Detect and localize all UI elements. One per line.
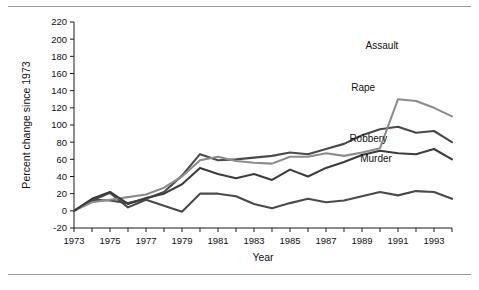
x-axis-tick-label: 1973 — [63, 235, 84, 246]
y-axis-tick-label: -20 — [53, 222, 67, 233]
y-axis-tick-label: 120 — [51, 102, 67, 113]
series-line-murder — [74, 127, 452, 211]
y-axis-tick-label: 80 — [56, 137, 67, 148]
series-label-murder: Murder — [360, 153, 392, 164]
y-axis-title: Percent change since 1973 — [20, 61, 32, 188]
x-axis-tick-label: 1989 — [351, 235, 372, 246]
series-label-robbery: Robbery — [349, 133, 387, 144]
y-axis-tick-label: 60 — [56, 154, 67, 165]
y-axis-tick-label: 0 — [62, 205, 67, 216]
x-axis-title: Year — [252, 251, 274, 263]
y-axis-tick-label: 200 — [51, 34, 67, 45]
x-axis-tick-label: 1993 — [423, 235, 444, 246]
x-axis-tick-label: 1979 — [171, 235, 192, 246]
line-chart: -200204060801001201401601802002201973197… — [0, 0, 479, 290]
figure-container: -200204060801001201401601802002201973197… — [0, 0, 479, 290]
y-axis-tick-label: 40 — [56, 171, 67, 182]
x-axis-tick-label: 1985 — [279, 235, 300, 246]
y-axis-tick-label: 140 — [51, 85, 67, 96]
x-axis-tick-label: 1977 — [135, 235, 156, 246]
series-label-rape: Rape — [351, 82, 375, 93]
y-axis-tick-label: 100 — [51, 119, 67, 130]
y-axis-tick-label: 20 — [56, 188, 67, 199]
y-axis-tick-label: 180 — [51, 51, 67, 62]
x-axis-tick-label: 1981 — [207, 235, 228, 246]
y-axis-tick-label: 160 — [51, 68, 67, 79]
x-axis-tick-label: 1983 — [243, 235, 264, 246]
x-axis-tick-label: 1975 — [99, 235, 120, 246]
x-axis-tick-label: 1987 — [315, 235, 336, 246]
y-axis-tick-label: 220 — [51, 16, 67, 27]
x-axis-tick-label: 1991 — [387, 235, 408, 246]
series-label-assault: Assault — [366, 40, 399, 51]
